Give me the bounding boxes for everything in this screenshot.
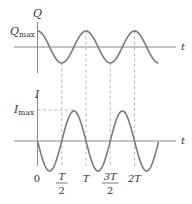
- q-axis-label: Q: [33, 7, 42, 20]
- qmax-label: Qmax: [10, 25, 36, 39]
- tick-half-T-den: 2: [59, 185, 65, 196]
- tick-3half-T-num: 3T: [104, 171, 118, 182]
- top-t-label: t: [181, 41, 186, 52]
- bottom-axes: [14, 95, 176, 166]
- time-tick-labels: 0 T 2 T 3T 2 2T: [34, 171, 143, 196]
- tick-zero: 0: [34, 173, 40, 184]
- qmax-main: Q: [10, 25, 19, 38]
- tick-3half-T-den: 2: [107, 185, 113, 196]
- qmax-sub: max: [19, 30, 36, 39]
- imax-sub: max: [18, 108, 35, 117]
- tick-2T: 2T: [127, 173, 142, 184]
- lc-oscillation-diagram: Q Qmax t I Imax t 0 T 2 T 3T 2 2T: [0, 0, 192, 204]
- tick-T: T: [83, 173, 91, 184]
- bottom-t-label: t: [181, 135, 186, 146]
- imax-label: Imax: [13, 103, 35, 117]
- i-axis-label: I: [34, 88, 40, 101]
- tick-half-T-num: T: [58, 171, 66, 182]
- top-axes: [14, 22, 176, 73]
